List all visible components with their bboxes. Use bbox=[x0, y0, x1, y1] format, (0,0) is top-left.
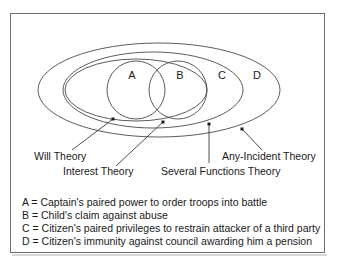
legend-item-a: A = Captain's paired power to order troo… bbox=[22, 196, 318, 209]
leader-dot-interest-theory bbox=[162, 121, 165, 124]
leader-line-will-theory bbox=[72, 119, 113, 150]
region-letter-d: D bbox=[253, 69, 261, 81]
outer-ellipse-D bbox=[38, 43, 280, 137]
legend-item-c: C = Citizen's paired privileges to restr… bbox=[22, 222, 318, 235]
leader-line-any-incident-theory bbox=[242, 129, 262, 150]
leader-dot-will-theory bbox=[112, 118, 115, 121]
region-letter-c: C bbox=[218, 69, 226, 81]
callout-label-several-functions-theory: Several Functions Theory bbox=[161, 165, 280, 177]
legend-item-b: B = Child's claim against abuse bbox=[22, 209, 318, 222]
callout-label-interest-theory: Interest Theory bbox=[63, 165, 133, 177]
inner-ellipse-AB bbox=[65, 59, 207, 121]
legend: A = Captain's paired power to order troo… bbox=[22, 196, 318, 248]
leader-dot-several-functions-theory bbox=[208, 123, 211, 126]
figure-root: A B C D Will Theory Interest Theory Seve… bbox=[0, 0, 338, 268]
circle-A bbox=[107, 61, 165, 119]
leader-line-interest-theory bbox=[116, 122, 163, 166]
region-letter-a: A bbox=[128, 69, 135, 81]
leader-dot-any-incident-theory bbox=[241, 128, 244, 131]
middle-ellipse-C bbox=[63, 52, 243, 128]
callout-label-any-incident-theory: Any-Incident Theory bbox=[222, 150, 316, 162]
legend-item-d: D = Citizen's immunity against council a… bbox=[22, 235, 318, 248]
region-letter-b: B bbox=[176, 69, 183, 81]
callout-label-will-theory: Will Theory bbox=[34, 150, 86, 162]
